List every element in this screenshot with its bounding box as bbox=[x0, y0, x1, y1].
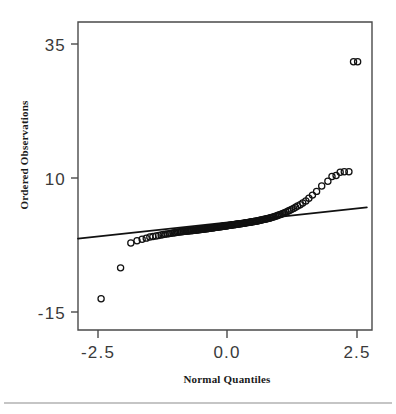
figure-background bbox=[0, 0, 396, 414]
y-tick-label-2: -15 bbox=[38, 304, 66, 323]
x-tick-label-0: -2.5 bbox=[81, 343, 115, 362]
y-axis-title: Ordered Observations bbox=[18, 100, 30, 210]
qq-plot-figure: 35 10 -15 -2.5 0.0 2.5 Normal Quantiles … bbox=[0, 0, 396, 414]
x-tick-label-2: 2.5 bbox=[343, 343, 370, 362]
y-tick-label-0: 35 bbox=[45, 36, 66, 55]
y-tick-label-1: 10 bbox=[45, 170, 66, 189]
x-axis-title: Normal Quantiles bbox=[183, 373, 271, 385]
x-tick-label-1: 0.0 bbox=[213, 343, 240, 362]
